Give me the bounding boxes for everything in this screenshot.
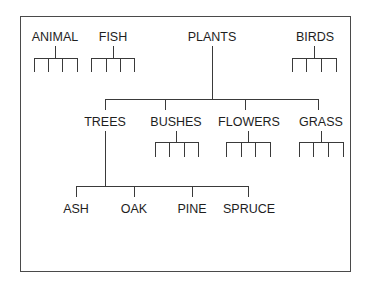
node-fish: FISH (92, 30, 135, 72)
node-plants: PLANTS (106, 30, 319, 110)
node-pine: PINE (177, 202, 206, 216)
node-ash: ASH (63, 202, 89, 216)
node-birds: BIRDS (293, 30, 337, 72)
node-label: ANIMAL (32, 30, 79, 44)
hierarchy-diagram: ANIMAL FISH PLANTS BIRDS TREES BUSHES FL… (0, 0, 365, 289)
node-animal: ANIMAL (32, 30, 79, 72)
node-label: BIRDS (296, 30, 334, 44)
node-grass: GRASS (299, 115, 343, 157)
node-bushes: BUSHES (150, 115, 201, 157)
diagram-frame (21, 17, 351, 272)
node-label: GRASS (299, 115, 343, 129)
node-label: PLANTS (188, 30, 237, 44)
node-label: BUSHES (150, 115, 201, 129)
node-spruce: SPRUCE (223, 202, 275, 216)
node-oak: OAK (121, 202, 148, 216)
node-label: FLOWERS (218, 115, 280, 129)
node-flowers: FLOWERS (218, 115, 280, 157)
node-label: TREES (84, 115, 126, 129)
node-label: FISH (99, 30, 127, 44)
